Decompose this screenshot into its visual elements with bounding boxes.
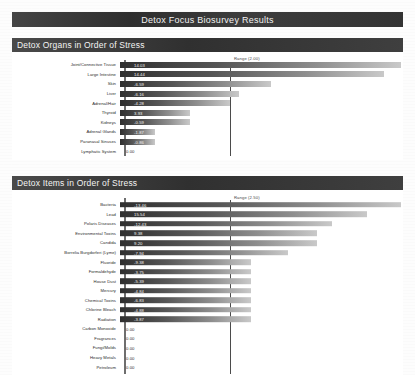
bar-track: -12.43 [120, 219, 403, 229]
bar-value-label: 9.38 [134, 231, 143, 236]
category-label: Thyroid [12, 110, 120, 115]
chart-row: Mercury-4.84 [12, 286, 403, 296]
category-label: Chlorine Bleach [12, 307, 120, 312]
bar [120, 240, 317, 246]
chart-row: Borrelia Burgdorferi (Lyme)-7.94 [12, 248, 403, 258]
bar-value-label: -0.86 [134, 139, 144, 144]
category-label: Liver [12, 91, 120, 96]
chart-row: House Dust-5.39 [12, 276, 403, 286]
bar-track: -6.59 [120, 79, 403, 89]
section-header-detox-organs: Detox Organs in Order of Stress [12, 38, 403, 52]
bar [120, 250, 288, 256]
bar-value-label: -13.46 [134, 202, 146, 207]
bar-value-label: -9.38 [134, 260, 144, 265]
category-label: Adrenal/Hair [12, 101, 120, 106]
bar-value-label: -7.94 [134, 250, 144, 255]
chart-row: Fragrances0.00 [12, 334, 403, 344]
bar-value-label: 3.93 [134, 110, 143, 115]
bar-track: 0.00 [120, 362, 403, 372]
chart-row: Joint/Connective Tissue14.03 [12, 60, 403, 70]
chart-row: Chlorine Bleach-4.88 [12, 305, 403, 315]
bar-track: 0.00 [120, 324, 403, 334]
bar-track: 0.00 [120, 343, 403, 353]
chart-detox-organs: Range (2.00) Joint/Connective Tissue14.0… [12, 52, 403, 160]
chart-row: Candida9.20 [12, 238, 403, 248]
category-label: Adrenal Glands [12, 129, 120, 134]
category-label: Fungi/Molds [12, 345, 120, 350]
bar [120, 221, 332, 227]
bar-track: -6.16 [120, 89, 403, 99]
bar-value-label: -0.59 [134, 120, 144, 125]
category-label: Joint/Connective Tissue [12, 62, 120, 67]
chart-row: Liver-6.16 [12, 89, 403, 99]
chart-row: Bacteria-13.46 [12, 200, 403, 210]
category-label: Fragrances [12, 336, 120, 341]
category-label: Skin [12, 81, 120, 86]
category-label: Petroleum [12, 365, 120, 370]
bar-track: -1.87 [120, 127, 403, 137]
bar-value-label: 9.20 [134, 240, 143, 245]
chart-row: Paranasal Sinuses-0.86 [12, 137, 403, 147]
chart-row: Kidneys-0.59 [12, 118, 403, 128]
bar-value-label: 0.00 [126, 365, 135, 370]
bar-value-label: 0.00 [126, 345, 135, 350]
bar-value-label: 14.03 [134, 62, 145, 67]
chart-row: Chemical Toxins-6.83 [12, 295, 403, 305]
bar-track: 9.20 [120, 238, 403, 248]
section-detox-organs: Detox Organs in Order of Stress Range (2… [12, 38, 403, 160]
category-label: House Dust [12, 279, 120, 284]
chart-row: Carbon Monoxide0.00 [12, 324, 403, 334]
bar-track: 9.38 [120, 229, 403, 239]
bar-value-label: -4.88 [134, 307, 144, 312]
bar-track: -3.75 [120, 267, 403, 277]
bar [120, 212, 367, 218]
chart-detox-items: Range (2.50) Bacteria-13.46Lead15.54Pola… [12, 190, 403, 375]
bar-track: -4.28 [120, 98, 403, 108]
category-label: Radiation [12, 317, 120, 322]
bar-track: -4.84 [120, 286, 403, 296]
document-title-bar: Detox Focus Biosurvey Results [12, 12, 403, 27]
chart-row: Fungi/Molds0.00 [12, 343, 403, 353]
bar-value-label: -6.83 [134, 298, 144, 303]
bar-track: -9.38 [120, 257, 403, 267]
chart-rows: Joint/Connective Tissue14.03Large Intest… [12, 60, 403, 156]
chart-row: Lead15.54 [12, 210, 403, 220]
bar-track: 14.44 [120, 70, 403, 80]
bar-value-label: 0.00 [126, 149, 135, 154]
category-label: Lymphatic System [12, 149, 120, 154]
chart-row: Large Intestine14.44 [12, 70, 403, 80]
page-title: Detox Focus Biosurvey Results [141, 15, 273, 25]
bar-value-label: -12.43 [134, 221, 146, 226]
bar-value-label: 0.00 [126, 355, 135, 360]
bar-value-label: -3.75 [134, 269, 144, 274]
category-label: Borrelia Burgdorferi (Lyme) [12, 250, 120, 255]
chart-rows: Bacteria-13.46Lead15.54Polaris Diseases-… [12, 200, 403, 372]
bar-value-label: -1.87 [134, 129, 144, 134]
bar-value-label: -6.59 [134, 81, 144, 86]
chart-row: Lymphatic System0.00 [12, 146, 403, 156]
category-label: Lead [12, 212, 120, 217]
bar-track: -5.39 [120, 276, 403, 286]
category-label: Formaldehyde [12, 269, 120, 274]
bar-track: -0.86 [120, 137, 403, 147]
bar [120, 119, 190, 125]
bar-track: -4.88 [120, 305, 403, 315]
bar [120, 71, 384, 77]
bar-track: 14.03 [120, 60, 403, 70]
chart-row: Petroleum0.00 [12, 362, 403, 372]
bar-track: 0.00 [120, 334, 403, 344]
category-label: Candida [12, 240, 120, 245]
bar-value-label: -4.84 [134, 288, 144, 293]
bar-track: -3.87 [120, 315, 403, 325]
bar-value-label: -5.39 [134, 279, 144, 284]
section-title: Detox Organs in Order of Stress [17, 40, 145, 50]
category-label: Kidneys [12, 120, 120, 125]
chart-row: Thyroid3.93 [12, 108, 403, 118]
chart-row: Adrenal/Hair-4.28 [12, 98, 403, 108]
bar-value-label: 15.54 [134, 212, 145, 217]
bar-value-label: -3.87 [134, 317, 144, 322]
chart-row: Fluoride-9.38 [12, 257, 403, 267]
category-label: Carbon Monoxide [12, 326, 120, 331]
bar [120, 202, 401, 208]
bar [120, 231, 317, 237]
